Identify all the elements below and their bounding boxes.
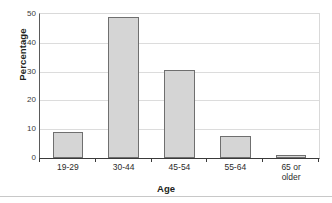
x-axis-title: Age [0,183,332,194]
x-axis-tick-label-line: 65 or [281,162,300,172]
x-axis-tick-label-line: 19-29 [57,162,79,172]
x-axis-tick-label-line: 55-64 [224,162,246,172]
x-axis-tick-label: 55-64 [207,162,263,182]
y-axis-tick-label: 20 [14,95,36,104]
y-axis-tick-label: 50 [14,9,36,18]
x-axis-tick-label: 30-44 [96,162,152,182]
bar[interactable] [164,70,195,158]
y-axis-tick-label: 30 [14,66,36,75]
x-axis-tick-label: 19-29 [40,162,96,182]
bar-slot [263,14,319,158]
y-axis-tick-labels: 01020304050 [14,0,36,203]
footer-rule [0,196,332,197]
bar-slot [207,14,263,158]
x-axis-tick-labels: 19-2930-4445-5455-6465 orolder [40,162,319,182]
plot-area [39,13,320,159]
bar-slot [40,14,96,158]
bar-slot [96,14,152,158]
y-axis-tick-label: 0 [14,153,36,162]
bar-slot [152,14,208,158]
x-axis-tick-label-line: older [263,172,319,182]
bar[interactable] [53,132,84,158]
x-axis-tick-label: 65 orolder [263,162,319,182]
y-axis-tick-label: 40 [14,37,36,46]
bar-series [40,14,319,158]
x-axis-tick-label-line: 45-54 [169,162,191,172]
x-axis-tick-label: 45-54 [152,162,208,182]
bar[interactable] [220,136,251,158]
bar[interactable] [108,17,139,158]
bar-chart-figure: Percentage 01020304050 19-2930-4445-5455… [0,0,332,203]
x-axis-tick-label-line: 30-44 [113,162,135,172]
y-axis-tick-label: 10 [14,124,36,133]
